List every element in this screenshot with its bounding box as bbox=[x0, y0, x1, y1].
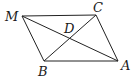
geometry-diagram: M C D A B bbox=[0, 0, 138, 78]
segment-CA bbox=[96, 15, 118, 61]
label-C: C bbox=[93, 0, 103, 15]
label-D: D bbox=[63, 21, 75, 36]
segment-MC bbox=[22, 15, 96, 16]
label-A: A bbox=[120, 58, 130, 73]
label-M: M bbox=[4, 9, 19, 24]
segment-BM bbox=[22, 16, 44, 61]
label-B: B bbox=[37, 64, 48, 78]
